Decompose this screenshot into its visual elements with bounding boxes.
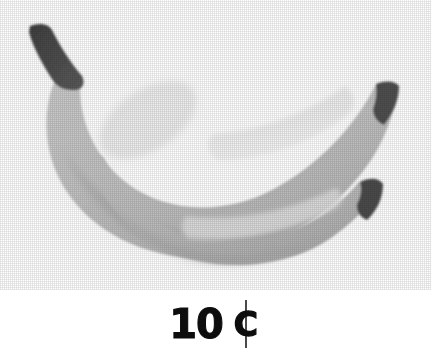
two-bananas-illustration: [0, 0, 431, 290]
bananas-svg: [0, 0, 431, 290]
cent-sign-icon: C: [232, 300, 262, 348]
cent-letter: C: [234, 308, 258, 341]
price-label: 10 C: [0, 296, 431, 352]
banana-price-card: 10 C: [0, 0, 431, 358]
price-amount: 10: [169, 304, 223, 344]
